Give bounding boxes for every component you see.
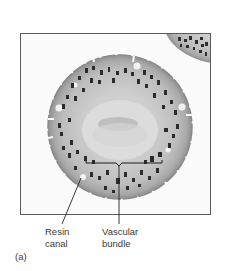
vascular-bundle-label: Vascular bundle: [102, 226, 138, 249]
vascular-bundle-label-line1: Vascular: [102, 226, 138, 238]
vascular-bundle-label-line2: bundle: [102, 238, 138, 250]
panel-label: (a): [15, 251, 27, 262]
resin-canal-label-line2: canal: [45, 238, 69, 250]
resin-canal-label-line1: Resin: [45, 226, 69, 238]
micrograph-figure: Resin canal Vascular bundle (a): [0, 0, 226, 271]
resin-canal-label: Resin canal: [45, 226, 69, 249]
